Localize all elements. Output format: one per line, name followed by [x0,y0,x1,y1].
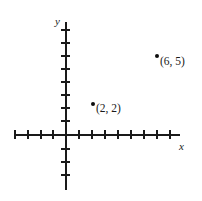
x-axis-tick [91,130,93,139]
y-axis-tick [61,148,70,150]
y-axis-tick [61,42,70,44]
data-point-label: (6, 5) [160,56,185,68]
x-axis-tick [104,130,106,139]
y-axis-label: y [55,16,60,27]
y-axis-tick [61,55,70,57]
data-point-label: (2, 2) [96,103,121,115]
x-axis-tick [169,130,171,139]
y-axis-tick [61,81,70,83]
x-axis-label: x [179,141,184,152]
y-axis-tick [61,94,70,96]
x-axis-tick [78,130,80,139]
x-axis-tick [40,130,42,139]
y-axis-line [65,22,67,190]
coordinate-plane-figure: y x (2, 2) (6, 5) [0,0,202,201]
y-axis-tick [61,107,70,109]
data-point-marker [155,54,159,58]
y-axis-tick [61,120,70,122]
x-axis-tick [143,130,145,139]
x-axis-tick [130,130,132,139]
y-axis-tick [61,68,70,70]
y-axis-tick [61,161,70,163]
x-axis-tick [27,130,29,139]
y-axis-tick [61,174,70,176]
data-point-marker [91,102,95,106]
y-axis-tick [61,29,70,31]
x-axis-tick [156,130,158,139]
x-axis-tick [52,130,54,139]
x-axis-tick [117,130,119,139]
x-axis-tick [14,130,16,139]
